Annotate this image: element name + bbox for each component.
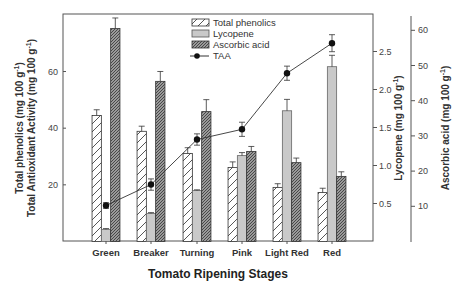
y-axis-ascorbic-title: Ascorbic acid (mg 100 g-1) (439, 66, 451, 191)
taa-marker (103, 202, 109, 208)
lycopene-tick-label: 1.5 (379, 123, 392, 133)
bar-lycopene (237, 156, 246, 242)
bar-lycopene (146, 213, 155, 241)
ascorbic-tick-label: 30 (418, 131, 428, 141)
taa-marker (239, 126, 245, 132)
lycopene-tick-label: 0.5 (379, 199, 392, 209)
ascorbic-tick-label: 50 (418, 61, 428, 71)
bar-phenolics (183, 153, 192, 241)
lycopene-tick-label: 1.0 (379, 161, 392, 171)
bar-phenolics (137, 131, 146, 241)
legend-marker-taa-icon (194, 53, 200, 59)
bar-phenolics (228, 168, 237, 242)
left-tick-label: 40 (48, 123, 58, 133)
category-label: Red (323, 247, 341, 258)
category-label: Turning (180, 247, 215, 258)
lycopene-tick-label: 2.5 (379, 47, 392, 57)
bar-lycopene (327, 67, 336, 242)
legend-label-taa: TAA (213, 50, 231, 61)
legend-swatch-phenolics (192, 19, 209, 26)
ascorbic-axis: 102030405060 (411, 25, 428, 211)
bar-phenolics (273, 187, 282, 241)
taa-marker (284, 70, 290, 76)
category-label: Light Red (265, 247, 309, 258)
lycopene-axis: 0.51.01.52.02.5 (373, 47, 392, 209)
bar-ascorbic (156, 81, 165, 241)
y-axis-left-title-2: Total Antioxidant Activity (mg 100 g-1) (25, 39, 37, 217)
ascorbic-tick-label: 60 (418, 25, 428, 35)
bar-ascorbic (111, 29, 120, 242)
y-axis-lycopene-title: Lycopene (mg 100 g-1) (392, 75, 404, 180)
bar-phenolics (318, 192, 327, 241)
bar-lycopene (282, 111, 291, 242)
x-axis-title: Tomato Ripening Stages (148, 267, 288, 281)
chart: 204060 0.51.01.52.02.5 102030405060 Gree… (0, 0, 468, 294)
x-axis: GreenBreakerTurningPinkLight RedRed (92, 241, 341, 258)
ascorbic-tick-label: 40 (418, 96, 428, 106)
left-tick-label: 20 (48, 180, 58, 190)
lycopene-tick-label: 2.0 (379, 85, 392, 95)
bar-lycopene (101, 229, 110, 241)
bar-ascorbic (292, 163, 301, 242)
legend-swatch-ascorbic (192, 41, 209, 48)
bar-ascorbic (247, 151, 256, 241)
ascorbic-tick-label: 20 (418, 166, 428, 176)
legend: Total phenolics Lycopene Ascorbic acid T… (190, 17, 276, 61)
taa-marker (329, 40, 335, 46)
ascorbic-tick-label: 10 (418, 201, 428, 211)
legend-swatch-lycopene (192, 30, 209, 37)
category-label: Breaker (133, 247, 169, 258)
legend-label-ascorbic: Ascorbic acid (213, 39, 270, 50)
category-label: Pink (232, 247, 253, 258)
legend-label-lycopene: Lycopene (213, 28, 254, 39)
left-tick-label: 60 (48, 67, 58, 77)
bar-lycopene (192, 191, 201, 242)
category-label: Green (92, 247, 120, 258)
legend-label-phenolics: Total phenolics (213, 17, 276, 28)
bar-ascorbic (337, 176, 346, 241)
y-axis-left-title-1: Total phenolics (mg 100 g-1) (13, 62, 25, 194)
bar-phenolics (92, 115, 101, 241)
taa-marker (194, 136, 200, 142)
taa-marker (148, 181, 154, 187)
bar-ascorbic (202, 112, 211, 242)
